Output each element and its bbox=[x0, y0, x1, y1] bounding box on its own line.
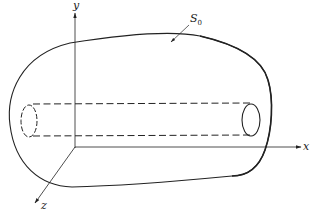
surface-outline bbox=[9, 33, 271, 187]
tube-left-end bbox=[21, 105, 37, 137]
z-axis bbox=[35, 147, 75, 203]
surface-outline-thick-edge bbox=[200, 36, 272, 176]
y-axis-label: y bbox=[72, 0, 80, 12]
tube-top-edge bbox=[33, 103, 251, 104]
surface-label: S0 bbox=[190, 12, 202, 27]
x-axis-label: x bbox=[303, 140, 310, 153]
tube-bottom-edge bbox=[33, 135, 251, 136]
tube-right-end bbox=[242, 104, 260, 136]
diagram-canvas: y x z S0 bbox=[0, 0, 313, 213]
z-axis-label: z bbox=[40, 199, 47, 212]
surface-label-subscript: 0 bbox=[198, 19, 202, 27]
